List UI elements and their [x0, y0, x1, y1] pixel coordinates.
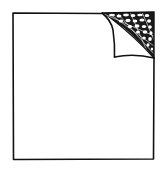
page-curl-icon: [0, 0, 166, 171]
page-curl-illustration: Page curl illustration: [0, 0, 166, 171]
